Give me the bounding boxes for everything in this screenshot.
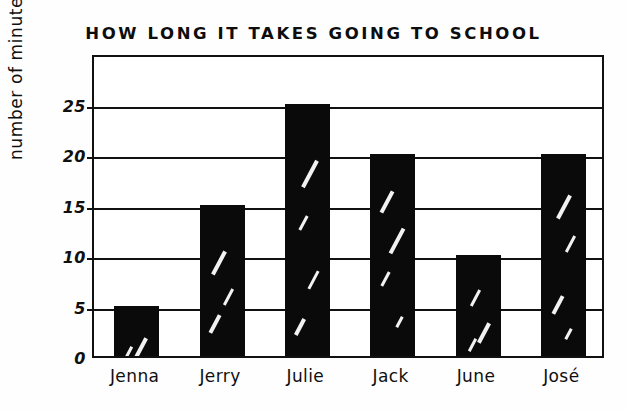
bar-texture-streak [298,215,308,231]
bar-jack[interactable] [370,154,415,356]
bar-jerry[interactable] [200,205,245,357]
bar-june[interactable] [456,255,501,356]
chart-page: HOW LONG IT TAKES GOING TO SCHOOL number… [0,0,627,411]
bar-texture-streak [395,316,403,328]
bar-texture-streak [469,290,480,307]
bar-texture-streak [477,322,491,343]
bar-texture-streak [211,251,227,276]
bar-texture-streak [380,271,390,287]
gridline-y-10 [92,258,604,260]
bar-jos[interactable] [541,154,586,356]
bar-texture-streak [209,314,222,334]
y-tick-label-15: 15 [52,197,86,216]
bar-julie[interactable] [285,104,330,357]
gridline-y-5 [92,309,604,311]
bar-texture-streak [552,296,565,316]
gridline-y-20 [92,157,604,159]
bar-jenna[interactable] [114,306,159,357]
x-tick-label-jenna: Jenna [110,366,159,386]
y-tick-label-25: 25 [52,96,86,115]
tickmark-y-15 [87,208,94,210]
bar-texture-streak [124,346,133,356]
y-axis-tick-labels: 0510152025 [48,0,86,411]
bar-texture-streak [294,318,306,336]
bar-texture-streak [307,271,319,290]
gridline-y-15 [92,208,604,210]
x-tick-label-june: June [457,366,496,386]
chart-title: HOW LONG IT TAKES GOING TO SCHOOL [0,24,627,43]
y-tick-label-5: 5 [52,298,86,317]
y-tick-label-10: 10 [52,248,86,267]
x-tick-label-jerry: Jerry [199,366,240,386]
bar-texture-streak [468,338,477,352]
plot-area [92,55,604,358]
bar-texture-streak [565,235,576,252]
tickmark-y-5 [87,309,94,311]
x-tick-label-jack: Jack [373,366,409,386]
gridline-y-25 [92,107,604,109]
bar-texture-streak [564,328,572,340]
y-tick-label-0: 0 [52,349,86,368]
x-axis-tick-labels: JennaJerryJulieJackJuneJosé [92,366,604,400]
y-axis-title: number of minutes [6,0,26,160]
bar-texture-streak [223,288,234,305]
bar-texture-streak [301,160,319,188]
tickmark-y-20 [87,157,94,159]
bar-texture-streak [380,191,395,214]
tickmark-y-25 [87,107,94,109]
bar-texture-streak [556,195,572,220]
bar-texture-streak [134,337,148,356]
x-tick-label-julie: Julie [286,366,324,386]
bar-texture-streak [389,227,406,254]
tickmark-y-10 [87,258,94,260]
x-tick-label-jos: José [543,366,579,386]
y-tick-label-20: 20 [52,147,86,166]
